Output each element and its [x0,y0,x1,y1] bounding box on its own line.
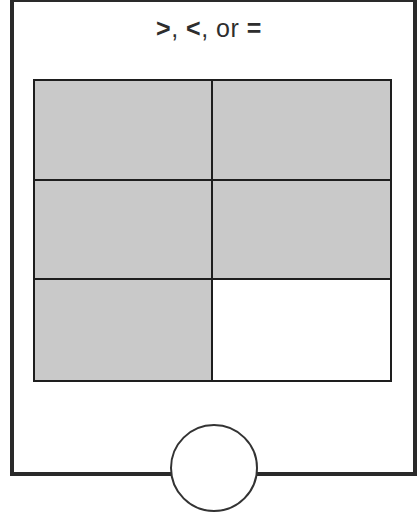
question-title: >, <, or = [0,14,418,43]
grid-cell-shaded [213,81,391,181]
grid-cell-shaded [213,181,391,281]
grid-cell-shaded [35,280,213,380]
grid-cell-shaded [35,81,213,181]
separator-or: , or [201,14,247,42]
grid-cell-shaded [35,181,213,281]
less-than-symbol: < [186,14,201,42]
fraction-grid [33,79,392,382]
answer-circle[interactable] [170,424,258,512]
grid-cell-unshaded [213,280,391,380]
separator: , [171,14,186,42]
greater-than-symbol: > [156,14,171,42]
equals-symbol: = [247,14,262,42]
